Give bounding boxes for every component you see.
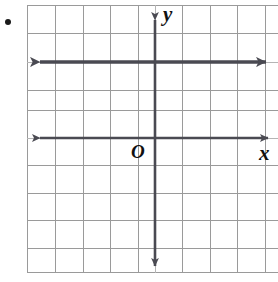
y-axis-label: y	[163, 4, 172, 25]
x-axis-label: x	[259, 143, 270, 164]
coordinate-plane-figure: y x O	[0, 0, 278, 282]
origin-label: O	[131, 142, 145, 161]
